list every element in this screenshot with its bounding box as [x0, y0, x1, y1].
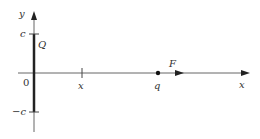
force-arrow-icon: [175, 70, 184, 76]
x-axis-arrow-icon: [241, 70, 250, 76]
point-charge-q: [156, 71, 160, 75]
y-axis-arrow-icon: [31, 11, 37, 20]
q-label: q: [154, 80, 160, 91]
x-point-label: x: [78, 80, 84, 91]
x-axis-label: x: [239, 79, 245, 90]
origin-label: 0: [23, 77, 29, 88]
Q-label: Q: [38, 39, 46, 50]
F-label: F: [168, 58, 177, 69]
y-axis-label: y: [18, 8, 25, 19]
diagram-canvas: y c Q 0 x q F x −c: [0, 0, 260, 139]
c-label: c: [20, 28, 26, 39]
minus-c-label: −c: [12, 106, 26, 117]
